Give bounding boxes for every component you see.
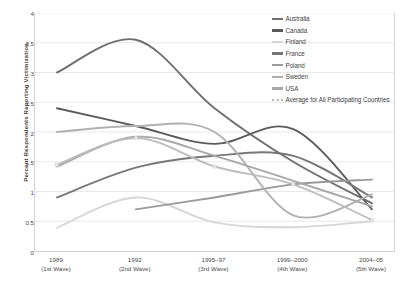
legend-item-france[interactable]: France <box>272 48 390 60</box>
data-point-marker <box>55 163 58 166</box>
legend-swatch-icon <box>272 87 283 89</box>
x-tick-year: 1999–2000 <box>277 256 308 263</box>
legend-swatch-icon <box>272 18 283 20</box>
series-line <box>57 197 372 227</box>
x-tick-year: 1989 <box>49 256 63 263</box>
x-axis-tick: 2004–05(5th Wave) <box>356 255 386 273</box>
x-axis-tick-labels: 1989(1st Wave)1992(2nd Wave)1995–97(3rd … <box>34 255 395 285</box>
legend-item-label: Average for All Participating Countries <box>286 96 390 103</box>
y-axis-tick: 0.5 <box>12 219 34 226</box>
legend-item-usa[interactable]: USA <box>272 83 390 95</box>
y-axis-tick: 3.5 <box>12 39 34 46</box>
y-axis-tick: 0 <box>12 249 34 256</box>
legend-item-australia[interactable]: Australia <box>272 13 390 25</box>
data-point-marker <box>292 183 295 186</box>
series-finland <box>57 197 372 227</box>
legend-swatch-icon <box>272 41 283 43</box>
y-axis-tick: 1.5 <box>12 159 34 166</box>
series-canada <box>57 108 372 209</box>
legend-item-label: Finland <box>286 38 306 45</box>
legend-swatch-icon <box>272 64 283 66</box>
y-axis-tick: 4 <box>12 10 34 17</box>
legend-item-label: Sweden <box>286 73 308 80</box>
legend-item-label: France <box>286 50 305 57</box>
x-tick-wave: (2nd Wave) <box>119 265 151 272</box>
legend-item-label: Canada <box>286 27 308 34</box>
y-axis-tick: 3 <box>12 69 34 76</box>
series-line <box>57 108 372 209</box>
x-axis-tick: 1992(2nd Wave) <box>119 255 151 273</box>
y-axis-tick-labels: 00.511.522.533.54 <box>10 0 34 287</box>
legend-item-sweden[interactable]: Sweden <box>272 71 390 83</box>
x-axis-tick: 1989(1st Wave) <box>41 255 71 273</box>
y-axis-tick: 2.5 <box>12 99 34 106</box>
y-axis-tick: 2 <box>12 129 34 136</box>
victimization-line-chart: Percent Respondents Reporting Victimizat… <box>0 0 400 287</box>
y-axis-tick: 1 <box>12 189 34 196</box>
legend-item-canada[interactable]: Canada <box>272 25 390 37</box>
x-tick-year: 2004–05 <box>359 256 383 263</box>
legend-item-finland[interactable]: Finland <box>272 36 390 48</box>
data-point-marker <box>370 218 373 221</box>
legend-item-label: Poland <box>286 62 305 69</box>
x-tick-year: 1992 <box>128 256 142 263</box>
x-tick-wave: (3rd Wave) <box>198 265 228 272</box>
x-tick-wave: (1st Wave) <box>41 265 71 272</box>
legend-swatch-icon <box>272 76 283 78</box>
legend-item-label: USA <box>286 85 299 92</box>
x-axis-tick: 1999–2000(4th Wave) <box>277 255 308 273</box>
legend-swatch-icon <box>272 29 283 31</box>
series-usa <box>57 137 372 207</box>
series-line <box>57 137 372 207</box>
legend-item-average-for-all-participating-countries[interactable]: Average for All Participating Countries <box>272 94 390 106</box>
data-point-marker <box>213 165 216 168</box>
legend-item-poland[interactable]: Poland <box>272 59 390 71</box>
x-tick-wave: (5th Wave) <box>356 265 386 272</box>
x-axis-tick: 1995–97(3rd Wave) <box>198 255 228 273</box>
chart-legend: AustraliaCanadaFinlandFrancePolandSweden… <box>272 13 390 106</box>
legend-item-label: Australia <box>286 15 310 22</box>
x-tick-wave: (4th Wave) <box>277 265 307 272</box>
data-point-marker <box>134 136 137 139</box>
legend-swatch-icon <box>272 52 283 54</box>
legend-swatch-icon <box>272 99 283 101</box>
x-tick-year: 1995–97 <box>201 256 225 263</box>
